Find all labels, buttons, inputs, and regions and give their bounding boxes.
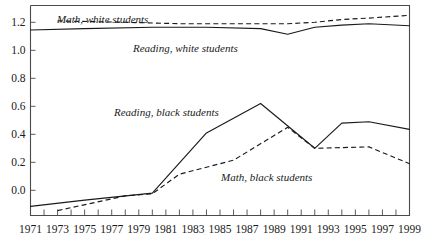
x-tick-label: 1977	[100, 223, 123, 235]
x-tick-label: 1993	[317, 223, 340, 235]
x-tick-label: 1983	[181, 223, 204, 235]
y-tick-label: 0.4	[11, 128, 26, 140]
chart-figure: 0.00.20.40.60.81.01.2 197119731975197719…	[0, 0, 421, 247]
x-tick-label: 1985	[209, 223, 232, 235]
series-line-reading-white-students	[31, 24, 410, 35]
x-tick-label: 1991	[290, 223, 313, 235]
x-tick-label: 1973	[46, 223, 69, 235]
y-tick-label: 0.8	[11, 72, 26, 84]
y-tick-label: 1.0	[11, 44, 26, 56]
series-annotation-math-white-students: Math, white students	[56, 13, 148, 25]
series-annotation-reading-black-students: Reading, black students	[113, 106, 219, 118]
x-tick-label: 1975	[73, 223, 96, 235]
x-tick-label: 1999	[398, 223, 421, 235]
x-tick-label: 1987	[236, 223, 259, 235]
x-tick-label: 1979	[127, 223, 150, 235]
x-tick-label: 1995	[344, 223, 367, 235]
plot-frame	[31, 6, 410, 216]
series-line-math-black-students	[58, 127, 410, 210]
y-axis-tick-labels: 0.00.20.40.60.81.01.2	[11, 16, 26, 196]
y-axis-ticks	[31, 22, 36, 190]
y-tick-label: 1.2	[11, 16, 26, 28]
x-tick-label: 1981	[154, 223, 177, 235]
x-axis-major-ticks	[31, 210, 410, 216]
x-tick-label: 1989	[263, 223, 286, 235]
line-chart: 0.00.20.40.60.81.01.2 197119731975197719…	[0, 0, 421, 247]
series-annotation-math-black-students: Math, black students	[220, 171, 312, 183]
y-tick-label: 0.0	[11, 184, 26, 196]
x-tick-label: 1997	[371, 223, 394, 235]
series-line-reading-black-students	[31, 104, 410, 207]
y-tick-label: 0.6	[11, 100, 26, 112]
x-tick-label: 1971	[19, 223, 42, 235]
x-axis-tick-labels: 1971197319751977197919811983198519871989…	[19, 223, 421, 235]
series-annotation-reading-white-students: Reading, white students	[132, 42, 238, 54]
y-tick-label: 0.2	[11, 156, 26, 168]
